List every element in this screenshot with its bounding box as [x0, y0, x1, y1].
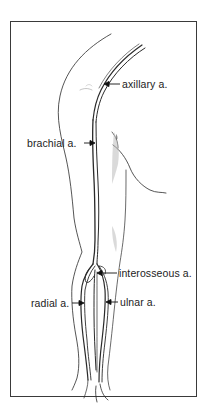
- interosseous-artery: [94, 270, 96, 370]
- label-interosseous-artery: interosseous a.: [119, 267, 192, 279]
- brachial-arrowhead: [90, 141, 95, 146]
- arm-outline-left: [58, 34, 111, 390]
- label-axillary-artery: axillary a.: [122, 78, 167, 90]
- label-ulnar-artery: ulnar a.: [120, 296, 156, 308]
- torso-outline: [113, 145, 166, 193]
- label-brachial-artery: brachial a.: [27, 137, 77, 149]
- shading-armpit: [112, 132, 119, 184]
- radial-arrowhead: [79, 301, 84, 306]
- label-radial-artery: radial a.: [31, 297, 69, 309]
- ulnar-artery: [97, 264, 105, 382]
- ulnar-arrowhead: [106, 300, 111, 305]
- interosseous-arrowhead: [97, 271, 102, 276]
- shading-forearm: [112, 226, 117, 252]
- arm-artery-illustration: [0, 0, 208, 409]
- arm-outline-right: [108, 170, 126, 390]
